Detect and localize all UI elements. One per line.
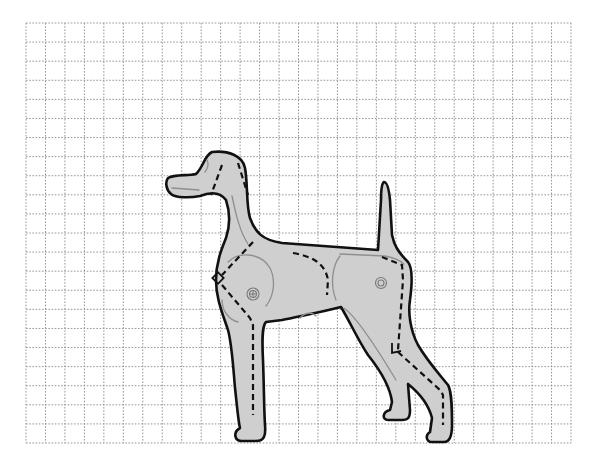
background-grid: [26, 23, 571, 443]
dog-grooming-diagram: [0, 0, 599, 473]
